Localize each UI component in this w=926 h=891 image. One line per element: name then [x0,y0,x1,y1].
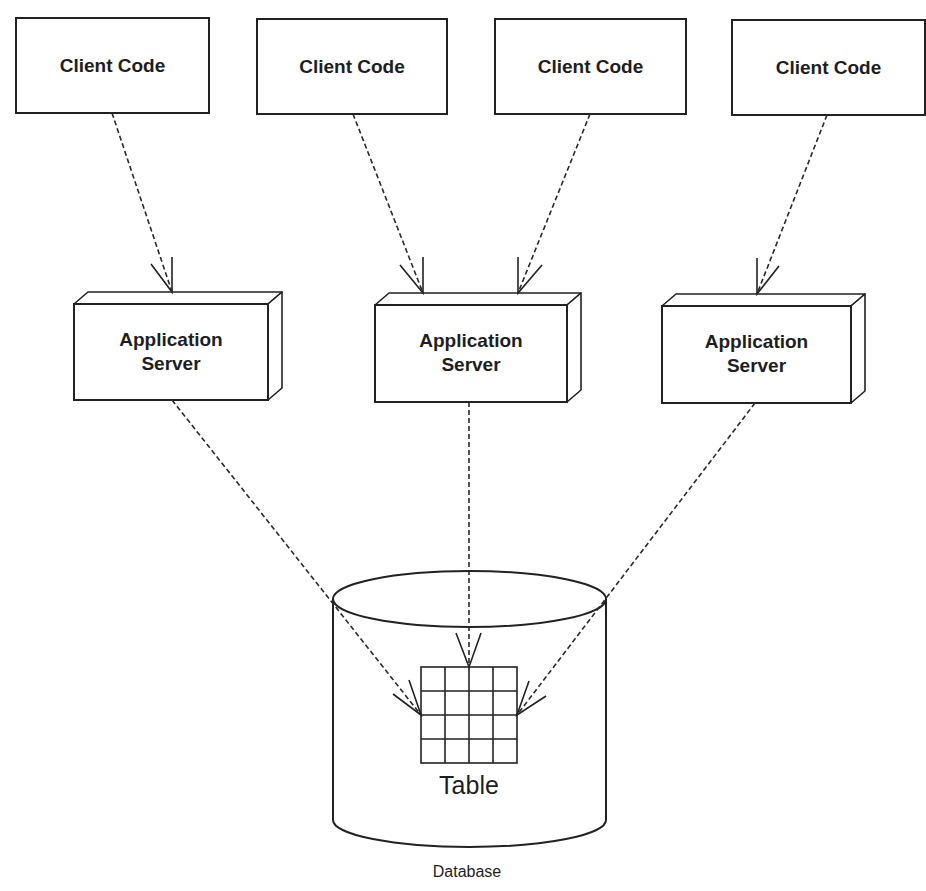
server-node-2[interactable]: Application Server [375,293,581,402]
server-label-line1: Application [119,329,222,350]
server-side-face [851,294,865,403]
client-label: Client Code [299,56,405,77]
server-label-line1: Application [419,330,522,351]
server-node-3[interactable]: Application Server [662,294,865,403]
server-label-line2: Server [727,355,787,376]
arrowhead-icon [151,257,172,292]
server-side-face [268,292,282,400]
server-top-face [662,294,865,306]
client-node-1[interactable]: Client Code [16,18,209,113]
server-label-line1: Application [705,331,808,352]
database-node[interactable]: Table Database [333,571,606,880]
client-label: Client Code [538,56,644,77]
client-label: Client Code [776,57,882,78]
arrowhead-icon [400,257,423,293]
deployment-diagram: Client Code Client Code Client Code Clie… [0,0,926,891]
table-grid-icon [421,667,517,763]
server-label-line2: Server [141,353,201,374]
client-node-2[interactable]: Client Code [257,19,447,114]
database-label: Database [433,863,502,880]
connector-client2-server2[interactable] [353,114,423,293]
server-node-1[interactable]: Application Server [74,292,282,400]
client-node-3[interactable]: Client Code [495,19,686,114]
server-front-face [74,304,268,400]
connector-client4-server3[interactable] [757,115,827,294]
client-node-4[interactable]: Client Code [732,20,925,115]
server-top-face [74,292,282,304]
server-label-line2: Server [441,354,501,375]
arrowhead-icon [757,258,779,294]
connector-client3-server2[interactable] [518,114,590,293]
server-top-face [375,293,581,305]
connector-client1-server1[interactable] [112,113,172,292]
client-label: Client Code [60,55,166,76]
server-side-face [567,293,581,402]
table-label: Table [439,771,499,799]
